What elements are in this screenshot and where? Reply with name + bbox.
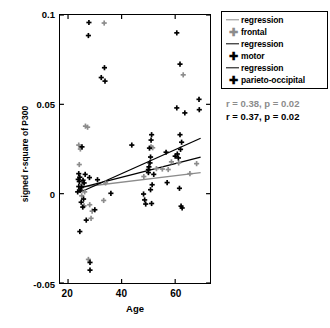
- data-point-motor: [148, 187, 153, 192]
- data-point-motor: [177, 62, 182, 67]
- legend-item-label: regression: [241, 15, 283, 25]
- legend-item-regression[interactable]: regression: [225, 38, 324, 50]
- data-point-frontal: [187, 171, 192, 176]
- data-point-motor: [177, 132, 182, 137]
- data-point-motor: [77, 229, 82, 234]
- data-point-motor: [196, 97, 201, 102]
- x-tick-label: 60: [170, 288, 181, 299]
- plus-marker-icon: ✚: [225, 51, 241, 62]
- stat-line-motor: r = 0.37, p = 0.02: [226, 110, 330, 123]
- y-tick-label: 0: [0, 189, 55, 200]
- data-point-motor: [95, 177, 100, 182]
- legend-item-frontal[interactable]: ✚frontal: [225, 26, 324, 38]
- data-point-motor: [174, 105, 179, 110]
- data-point-frontal: [87, 202, 92, 207]
- plus-marker-icon: ✚: [225, 75, 241, 86]
- legend[interactable]: regression✚frontalregression✚motorregres…: [221, 11, 328, 89]
- data-point-motor: [197, 107, 202, 112]
- data-point-motor: [99, 75, 104, 80]
- data-point-frontal: [89, 216, 94, 221]
- correlation-stats: r = 0.38, p = 0.02 r = 0.37, p = 0.02: [226, 97, 330, 123]
- x-axis-title: Age: [59, 303, 211, 314]
- data-point-motor: [174, 30, 179, 35]
- data-point-motor: [83, 172, 88, 177]
- plot-area: [59, 14, 211, 284]
- data-point-motor: [165, 180, 170, 185]
- data-point-frontal: [176, 160, 181, 165]
- data-point-parieto-occipital: [87, 175, 92, 180]
- x-tick-label: 40: [116, 288, 127, 299]
- data-point-motor: [84, 218, 89, 223]
- data-point-motor: [182, 110, 187, 115]
- data-point-motor: [129, 142, 134, 147]
- data-point-motor: [102, 65, 107, 70]
- legend-item-label: motor: [241, 51, 265, 61]
- legend-item-regression[interactable]: regression: [225, 14, 324, 26]
- data-point-motor: [108, 191, 113, 196]
- y-tick-label: 0.1: [0, 9, 55, 20]
- legend-item-label: regression: [241, 39, 283, 49]
- data-point-motor: [150, 182, 155, 187]
- data-point-motor: [86, 20, 91, 25]
- plus-marker-icon: ✚: [225, 27, 241, 38]
- regression-lines-group: [80, 138, 201, 192]
- data-point-frontal: [141, 174, 146, 179]
- data-point-motor: [149, 201, 154, 206]
- legend-item-motor[interactable]: ✚motor: [225, 50, 324, 62]
- regression-line: [80, 138, 201, 192]
- legend-item-label: frontal: [241, 27, 267, 37]
- data-point-frontal: [77, 162, 82, 167]
- data-point-motor: [177, 186, 182, 191]
- data-point-motor: [149, 137, 154, 142]
- data-point-motor: [102, 79, 107, 84]
- data-point-frontal: [166, 167, 171, 172]
- legend-item-regression[interactable]: regression: [225, 62, 324, 74]
- data-point-frontal: [181, 72, 186, 77]
- legend-item-label: parieto-occipital: [241, 75, 305, 85]
- x-tick-label: 20: [62, 288, 73, 299]
- legend-item-label: regression: [241, 63, 283, 73]
- scatter-plot-svg: [60, 15, 210, 283]
- data-point-frontal: [101, 198, 106, 203]
- data-point-motor: [86, 33, 91, 38]
- data-point-motor: [87, 268, 92, 273]
- legend-item-parieto-occipital[interactable]: ✚parieto-occipital: [225, 74, 324, 86]
- data-point-frontal: [194, 161, 199, 166]
- data-point-motor: [149, 132, 154, 137]
- data-point-frontal: [102, 20, 107, 25]
- data-point-motor: [148, 154, 153, 159]
- data-point-motor: [141, 191, 146, 196]
- data-point-frontal: [154, 166, 159, 171]
- regression-line: [80, 157, 201, 188]
- y-tick-label: 0.05: [0, 99, 55, 110]
- figure-canvas: signed r-square of P300 -0.0500.050.1 20…: [0, 0, 330, 328]
- data-point-motor: [179, 140, 184, 145]
- y-tick-label: -0.05: [0, 279, 55, 290]
- stat-line-frontal: r = 0.38, p = 0.02: [226, 97, 330, 110]
- data-point-parieto-occipital: [151, 172, 156, 177]
